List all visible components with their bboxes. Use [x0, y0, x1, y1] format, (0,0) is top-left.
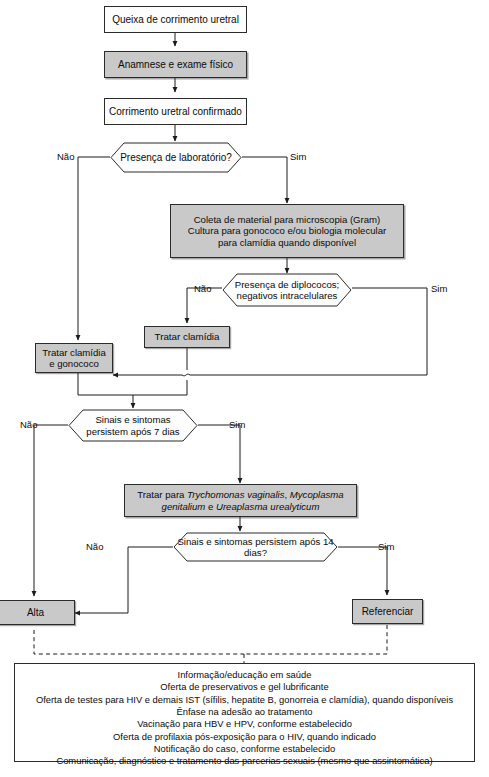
info-line: Oferta de profilaxia pós-exposição para … — [19, 731, 470, 743]
edge-label-d2-sim: Sim — [431, 283, 447, 294]
edge-hop — [182, 374, 190, 376]
info-line: Oferta de preservativos e gel lubrifican… — [19, 681, 470, 693]
edge-n5-to-d3 — [133, 380, 187, 408]
decision-label-line1: Presença de diplococos; — [235, 279, 340, 290]
info-line: Comunicação, diagnóstico e tratamento da… — [19, 755, 470, 767]
edge-label-d3-nao: Não — [20, 419, 37, 430]
edge-label-d3-sim: Sim — [229, 419, 245, 430]
node-label: Corrimento uretral confirmado — [109, 106, 242, 118]
info-line: Notificação do caso, conforme estabeleci… — [19, 743, 470, 755]
info-box: Informação/educação em saúde Oferta de p… — [14, 663, 475, 762]
edge-label-d4-nao: Não — [86, 541, 103, 552]
node-queixa-corrimento-uretral[interactable]: Queixa de corrimento uretral — [104, 6, 247, 33]
decision-presenca-laboratorio[interactable]: Presença de laboratório? — [110, 142, 242, 173]
node-tratar-clamidia-gonococo[interactable]: Tratar clamídia e gonococo — [35, 343, 113, 373]
info-line: Informação/educação em saúde — [19, 669, 470, 681]
node-label: Alta — [27, 607, 44, 619]
node-label: Queixa de corrimento uretral — [112, 14, 239, 26]
edge-label-d2-nao: Não — [194, 283, 211, 294]
n7-species-3: genitalium — [162, 501, 206, 512]
decision-label-line2: negativos intracelulares — [237, 290, 338, 301]
n7-mid-2: e — [205, 501, 216, 512]
node-label: Tratar clamídia — [155, 331, 220, 343]
decision-label: Sinais e sintomas persistem após 14 dias… — [173, 536, 338, 559]
edge-label-d1-sim: Sim — [290, 151, 306, 162]
flowchart-canvas: Queixa de corrimento uretral Anamnese e … — [0, 0, 489, 777]
info-line: Ênfase na adesão ao tratamento — [19, 706, 470, 718]
node-tratar-clamidia[interactable]: Tratar clamídia — [144, 326, 230, 348]
decision-label: Presença de laboratório? — [120, 152, 232, 164]
node-label: Referenciar — [362, 606, 414, 618]
info-line: Vacinação para HBV e HPV, conforme estab… — [19, 718, 470, 730]
node-corrimento-confirmado[interactable]: Corrimento uretral confirmado — [104, 98, 247, 125]
node-alta[interactable]: Alta — [0, 600, 75, 625]
edge-d4-nao-route — [75, 547, 128, 613]
node-label-line2: e gonococo — [49, 358, 99, 369]
node-coleta-material[interactable]: Coleta de material para microscopia (Gra… — [170, 204, 404, 258]
node-label-line1: Coleta de material para microscopia (Gra… — [194, 214, 381, 225]
decision-label-line2: persistem após 7 dias — [86, 426, 179, 437]
info-line: Oferta de testes para HIV e demais IST (… — [19, 694, 470, 706]
decision-presenca-diplococos[interactable]: Presença de diplococos; negativos intrac… — [222, 273, 352, 307]
node-label-line1: Tratar clamídia — [42, 347, 106, 358]
n7-species-4: Ureaplasma urealyticum — [216, 501, 319, 512]
decision-sinais-sintomas-14-dias[interactable]: Sinais e sintomas persistem após 14 dias… — [173, 532, 338, 562]
n7-species-2: Mycoplasma — [290, 489, 344, 500]
node-anamnese-exame-fisico[interactable]: Anamnese e exame físico — [104, 51, 247, 78]
decision-label: Sinais e sintomas persistem após 7 dias — [86, 414, 179, 437]
node-referenciar[interactable]: Referenciar — [352, 599, 423, 624]
node-label-line2: Cultura para gonococo e/ou biologia mole… — [188, 225, 386, 236]
edge-label-d1-nao: Não — [57, 151, 74, 162]
edge-alta-dashed — [34, 630, 244, 654]
node-label-line2: genitalium e Ureaplasma urealyticum — [162, 501, 320, 512]
edge-label-d4-sim: Sim — [378, 541, 394, 552]
node-label-line3: para clamídia quando disponível — [218, 237, 356, 248]
edge-referenciar-dashed — [244, 625, 387, 654]
node-tratar-trychomonas[interactable]: Tratar para Trychomonas vaginalis, Mycop… — [124, 484, 357, 517]
node-label-line1: Tratar para Trychomonas vaginalis, Mycop… — [137, 489, 343, 500]
decision-label: Presença de diplococos; negativos intrac… — [235, 279, 340, 302]
decision-sinais-sintomas-7-dias[interactable]: Sinais e sintomas persistem após 7 dias — [68, 409, 198, 442]
node-label: Anamnese e exame físico — [118, 59, 233, 71]
edge-n6-to-d3 — [78, 370, 133, 395]
n7-pre: Tratar para — [137, 489, 187, 500]
n7-species-1: Trychomonas vaginalis — [187, 489, 284, 500]
decision-label-line1: Sinais e sintomas — [95, 414, 170, 425]
